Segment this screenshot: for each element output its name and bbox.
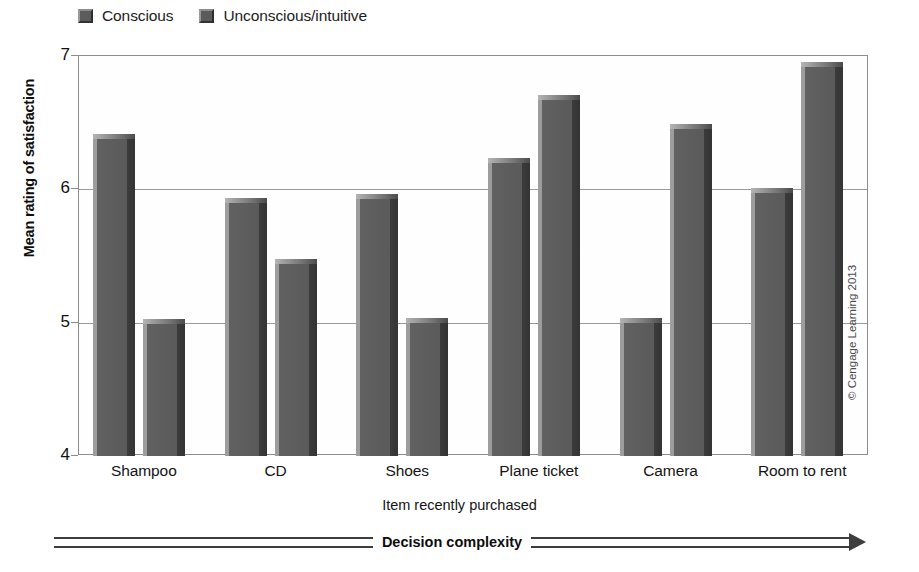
bar-plane-ticket-unconscious-intuitive <box>538 100 580 456</box>
bar-chart-figure: Conscious Unconscious/intuitive Mean rat… <box>0 0 919 572</box>
arrow-line-right <box>531 537 850 548</box>
y-tick-mark-6 <box>71 188 78 189</box>
x-axis-title: Item recently purchased <box>0 497 919 513</box>
arrow-line-left <box>54 537 373 548</box>
legend-swatch-conscious <box>78 9 93 23</box>
bar-top-cap <box>93 134 135 139</box>
bar-face <box>406 323 448 456</box>
plot-area <box>78 55 868 455</box>
legend-label-unconscious: Unconscious/intuitive <box>223 7 367 25</box>
bar-camera-conscious <box>620 323 662 456</box>
y-tick-mark-4 <box>71 455 78 456</box>
bar-face <box>538 100 580 456</box>
bar-plane-ticket-conscious <box>488 163 530 456</box>
decision-complexity-band: Decision complexity <box>54 527 866 557</box>
bar-top-cap <box>143 319 185 324</box>
bar-face <box>356 199 398 456</box>
bar-face <box>275 264 317 456</box>
bar-face <box>225 203 267 456</box>
chart-legend: Conscious Unconscious/intuitive <box>78 4 367 28</box>
bar-top-cap <box>538 95 580 100</box>
bar-top-cap <box>225 198 267 203</box>
bar-top-cap <box>620 318 662 323</box>
bar-top-cap <box>356 194 398 199</box>
bar-top-cap <box>275 259 317 264</box>
arrow-head-icon <box>849 533 866 551</box>
bar-room-to-rent-unconscious-intuitive <box>801 67 843 456</box>
bar-camera-unconscious-intuitive <box>670 129 712 456</box>
copyright-notice: © Cengage Learning 2013 <box>846 230 858 400</box>
bar-face <box>670 129 712 456</box>
y-tick-label-6: 6 <box>36 178 70 198</box>
bar-face <box>488 163 530 456</box>
bar-face <box>93 139 135 456</box>
decision-complexity-label: Decision complexity <box>373 534 531 550</box>
bar-shoes-conscious <box>356 199 398 456</box>
bar-shampoo-unconscious-intuitive <box>143 324 185 456</box>
bar-face <box>620 323 662 456</box>
bar-face <box>143 324 185 456</box>
legend-item-unconscious: Unconscious/intuitive <box>199 7 367 25</box>
bar-cd-conscious <box>225 203 267 456</box>
bar-top-cap <box>670 124 712 129</box>
bars-layer <box>79 56 867 454</box>
legend-item-conscious: Conscious <box>78 7 173 25</box>
bar-shampoo-conscious <box>93 139 135 456</box>
bar-top-cap <box>751 188 793 193</box>
y-tick-mark-7 <box>71 55 78 56</box>
x-tick-label-room-to-rent: Room to rent <box>712 462 892 480</box>
y-tick-mark-5 <box>71 322 78 323</box>
bar-top-cap <box>488 158 530 163</box>
legend-swatch-unconscious <box>199 9 214 23</box>
legend-label-conscious: Conscious <box>102 7 173 25</box>
bar-top-cap <box>801 62 843 67</box>
y-tick-label-7: 7 <box>36 45 70 65</box>
bar-room-to-rent-conscious <box>751 193 793 456</box>
bar-face <box>801 67 843 456</box>
y-axis-title: Mean rating of satisfaction <box>21 18 37 318</box>
bar-shoes-unconscious-intuitive <box>406 323 448 456</box>
y-tick-label-5: 5 <box>36 312 70 332</box>
bar-cd-unconscious-intuitive <box>275 264 317 456</box>
bar-face <box>751 193 793 456</box>
bar-top-cap <box>406 318 448 323</box>
